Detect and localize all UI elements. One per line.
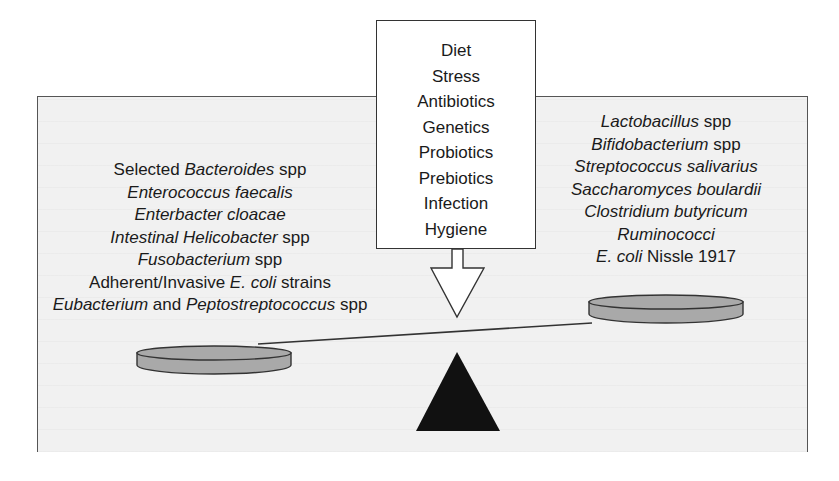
- list-item: Lactobacillus spp: [536, 111, 796, 134]
- list-item: Enterbacter cloacae: [40, 204, 380, 227]
- list-item: Enterococcus faecalis: [40, 182, 380, 205]
- factor-genetics: Genetics: [377, 115, 535, 141]
- factor-probiotics: Probiotics: [377, 140, 535, 166]
- list-item: Streptococcus salivarius: [536, 156, 796, 179]
- harmful-bacteria-list: Selected Bacteroides spp Enterococcus fa…: [40, 159, 380, 317]
- factor-diet: Diet: [377, 38, 535, 64]
- list-item: E. coli Nissle 1917: [536, 246, 796, 269]
- list-item: Saccharomyces boulardii: [536, 179, 796, 202]
- factors-list: Diet Stress Antibiotics Genetics Probiot…: [377, 38, 535, 242]
- list-item: Eubacterium and Peptostreptococcus spp: [40, 294, 380, 317]
- list-item: Fusobacterium spp: [40, 249, 380, 272]
- beneficial-bacteria-list: Lactobacillus spp Bifidobacterium spp St…: [536, 111, 796, 269]
- factors-box: Diet Stress Antibiotics Genetics Probiot…: [376, 20, 536, 249]
- factor-infection: Infection: [377, 191, 535, 217]
- list-item: Intestinal Helicobacter spp: [40, 227, 380, 250]
- factor-hygiene: Hygiene: [377, 217, 535, 243]
- list-item: Clostridium butyricum: [536, 201, 796, 224]
- list-item: Selected Bacteroides spp: [40, 159, 380, 182]
- list-item: Bifidobacterium spp: [536, 134, 796, 157]
- factor-stress: Stress: [377, 64, 535, 90]
- list-item: Ruminococci: [536, 224, 796, 247]
- list-item: Adherent/Invasive E. coli strains: [40, 272, 380, 295]
- factor-prebiotics: Prebiotics: [377, 166, 535, 192]
- factor-antibiotics: Antibiotics: [377, 89, 535, 115]
